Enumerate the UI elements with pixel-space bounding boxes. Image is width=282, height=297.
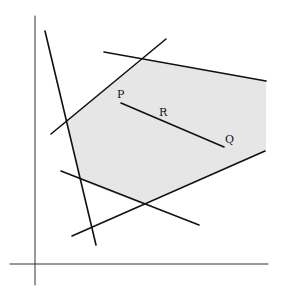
label-q: Q: [225, 133, 234, 146]
label-p: P: [117, 88, 125, 101]
label-r: R: [159, 106, 168, 119]
shaded-feasible-region: [67, 60, 266, 204]
diagram-canvas: P R Q: [0, 0, 282, 297]
feasible-region-diagram: P R Q: [0, 0, 282, 297]
